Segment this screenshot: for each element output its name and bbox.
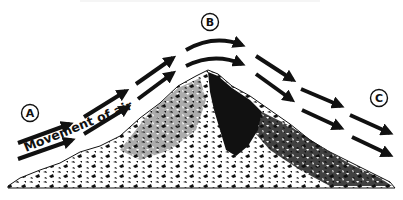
arrow-icon xyxy=(302,110,341,128)
label-a: A xyxy=(22,105,39,122)
label-c: C xyxy=(371,90,388,107)
label-a-text: A xyxy=(26,107,35,120)
arrow-curved-icon xyxy=(186,41,242,50)
arrow-icon xyxy=(350,115,390,133)
arrow-curved-icon xyxy=(186,58,242,66)
arrow-icon xyxy=(136,58,173,84)
arrow-icon xyxy=(301,89,341,106)
arrow-icon xyxy=(352,137,390,155)
label-b: B xyxy=(202,14,219,31)
orographic-airflow-diagram: Movement of air A B C xyxy=(0,0,403,200)
label-c-text: C xyxy=(375,92,383,105)
label-b-text: B xyxy=(206,16,214,29)
